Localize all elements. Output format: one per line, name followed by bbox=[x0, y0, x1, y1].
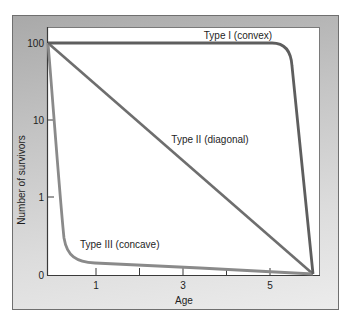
x-tick-label-1: 1 bbox=[93, 280, 99, 291]
y-axis-label: Number of survivors bbox=[16, 135, 27, 224]
y-tick-label-1: 1 bbox=[38, 192, 44, 203]
y-tick-label-0: 0 bbox=[38, 270, 44, 281]
type-1-label: Type I (convex) bbox=[204, 30, 272, 41]
y-tick-label-10: 10 bbox=[33, 115, 45, 126]
x-axis-label: Age bbox=[175, 295, 193, 306]
survivorship-chart: 100 10 1 0 1 3 5 Age Number of survivors… bbox=[0, 0, 350, 325]
type-3-label: Type III (concave) bbox=[80, 239, 159, 250]
type-2-label: Type II (diagonal) bbox=[171, 134, 248, 145]
x-tick-label-3: 3 bbox=[180, 280, 186, 291]
x-tick-label-5: 5 bbox=[267, 280, 273, 291]
y-tick-label-100: 100 bbox=[27, 38, 44, 49]
